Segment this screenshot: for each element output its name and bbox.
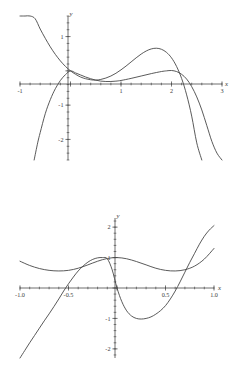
chart-bottom-canvas: -1.0-0.50.51.0-2-112 x y xyxy=(0,186,238,372)
y-tick-label: 1 xyxy=(60,33,63,40)
x-tick-label: 1 xyxy=(119,87,122,94)
x-tick-label: -0.5 xyxy=(64,291,74,298)
x-tick-label: -1 xyxy=(17,87,22,94)
curve-s-curve xyxy=(20,226,214,358)
y-tick-label: -1 xyxy=(58,101,63,108)
chart-bottom-curves xyxy=(20,226,214,358)
chart-top-ylabel: y xyxy=(68,10,73,17)
chart-top-canvas: -1123-2-11 x y xyxy=(0,0,238,186)
chart-bottom-xlabel: x xyxy=(217,284,221,291)
page-root: -1123-2-11 x y -1.0-0.50.51.0-2-112 x y xyxy=(0,0,238,372)
x-tick-label: 3 xyxy=(220,87,223,94)
chart-bottom: -1.0-0.50.51.0-2-112 x y xyxy=(0,186,238,372)
chart-top-xlabel: x xyxy=(224,80,228,87)
x-tick-label: -1.0 xyxy=(15,291,25,298)
y-tick-label: -2 xyxy=(58,136,63,143)
curve-flat-wave xyxy=(20,248,214,271)
x-tick-label: 2 xyxy=(170,87,173,94)
x-tick-label: 1.0 xyxy=(210,291,218,298)
curve-cubic xyxy=(20,16,202,160)
y-tick-label: 1 xyxy=(107,254,110,261)
x-tick-label: 0.5 xyxy=(162,291,170,298)
chart-bottom-ylabel: y xyxy=(115,212,120,219)
y-tick-label: -2 xyxy=(105,345,110,352)
chart-top: -1123-2-11 x y xyxy=(0,0,238,186)
y-tick-label: 2 xyxy=(107,223,110,230)
y-tick-label: -1 xyxy=(105,315,110,322)
